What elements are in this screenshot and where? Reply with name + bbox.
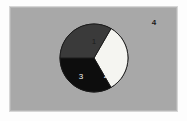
figure-canvas: 123 4: [0, 0, 187, 121]
plot-panel: 123 4: [9, 6, 178, 112]
slice-label-3: 3: [79, 73, 83, 81]
slice-label-2: 2: [104, 72, 108, 80]
pie-slices: [60, 24, 128, 92]
slice-label-1: 1: [92, 38, 96, 46]
slice-label-4: 4: [152, 19, 156, 27]
